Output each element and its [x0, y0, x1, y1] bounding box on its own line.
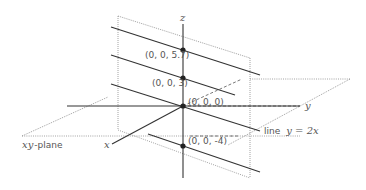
y-axis-label: y	[304, 100, 311, 111]
point-label-3: (0, 0, 3)	[152, 78, 188, 88]
point-label-5.7: (0, 0, 5.7)	[145, 50, 189, 60]
hidden-dashes	[183, 79, 300, 136]
vertical-plane	[118, 16, 250, 178]
line-z-0	[111, 84, 260, 131]
diagram-canvas: z y x (0, 0, 5.7) (0, 0, 3) (0, 0, 0) (0…	[0, 0, 366, 190]
xy-plane-label: xy-plane	[22, 139, 63, 150]
axes	[67, 24, 300, 178]
x-axis-label: x	[104, 139, 110, 150]
point-origin	[180, 103, 185, 108]
point-label-neg4: (0, 0, -4)	[188, 136, 227, 146]
point-z-neg4	[180, 143, 185, 148]
parallel-lines	[111, 27, 260, 172]
x-axis	[112, 106, 183, 144]
z-axis-label: z	[179, 12, 186, 23]
point-label-origin: (0, 0, 0)	[188, 97, 224, 107]
diagram-svg: z y x (0, 0, 5.7) (0, 0, 3) (0, 0, 0) (0…	[0, 0, 366, 190]
line-label: liney = 2x	[264, 125, 319, 136]
